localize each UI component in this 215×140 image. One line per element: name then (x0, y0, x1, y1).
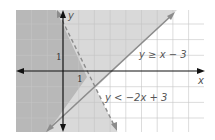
y-axis-label: y (67, 10, 75, 21)
x-axis-arrow-right (197, 68, 205, 74)
y-tick-label: 1 (56, 52, 62, 62)
x-tick-label: 1 (77, 74, 83, 84)
inequality-label-2: y < −2x + 3 (104, 92, 167, 103)
inequality-graph: y x 1 1 y ≥ x − 3 y < −2x + 3 (0, 0, 215, 140)
inequality-label-1: y ≥ x − 3 (138, 49, 187, 60)
x-axis-label: x (197, 75, 204, 86)
